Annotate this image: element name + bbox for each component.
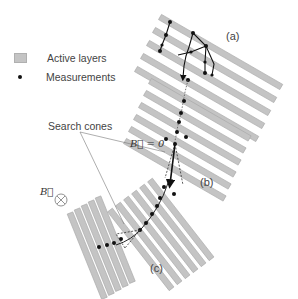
b-zero-label: B⃗ = 0 (130, 138, 164, 149)
layer-group-a (135, 14, 283, 141)
legend-item-measurements: Measurements (14, 67, 115, 86)
b-field-label: B⃗ (40, 186, 53, 197)
measurement-dot-icon (18, 75, 22, 79)
legend-label: Measurements (46, 71, 115, 83)
layer-swatch-icon (14, 53, 27, 63)
panel-label-c: (c) (150, 262, 163, 274)
search-cones-label: Search cones (48, 120, 112, 132)
legend: Active layers Measurements (14, 48, 115, 86)
legend-item-active-layers: Active layers (14, 48, 115, 67)
tracking-diagram (0, 0, 298, 299)
panel-label-a: (a) (226, 30, 239, 42)
b-field-out-of-page-icon (55, 194, 67, 206)
legend-label: Active layers (47, 52, 107, 64)
panel-label-b: (b) (200, 176, 213, 188)
